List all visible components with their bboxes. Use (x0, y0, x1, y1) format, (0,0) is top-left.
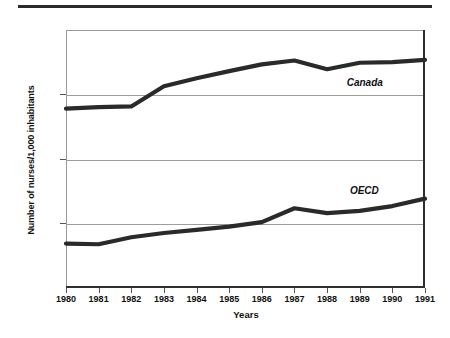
x-tick-mark (229, 288, 230, 293)
y-tick-mark (60, 223, 66, 224)
y-tick-mark (60, 94, 66, 95)
x-tick-mark (360, 288, 361, 293)
x-tick-mark (392, 288, 393, 293)
plot-area (66, 30, 425, 288)
y-tick-mark (60, 159, 66, 160)
top-divider-rule (18, 5, 432, 8)
series-label-canada: Canada (347, 77, 383, 88)
x-tick-mark (327, 288, 328, 293)
x-tick-mark (99, 288, 100, 293)
x-tick-mark (197, 288, 198, 293)
x-tick-mark (131, 288, 132, 293)
y-axis-title: Number of nurses/1,000 inhabitants (26, 45, 36, 275)
x-axis-title: Years (66, 309, 426, 320)
plot-right-border (423, 30, 425, 288)
x-tick-label: 1991 (405, 294, 445, 304)
x-tick-mark (294, 288, 295, 293)
plot-bottom-axis (66, 286, 425, 288)
x-tick-mark (425, 288, 426, 293)
series-label-oecd: OECD (350, 185, 379, 196)
gridline (67, 95, 424, 96)
gridline (67, 224, 424, 225)
gridline (67, 160, 424, 161)
x-tick-mark (164, 288, 165, 293)
x-tick-mark (66, 288, 67, 293)
chart-figure: Number of nurses/1,000 inhabitants 46810… (0, 0, 450, 338)
x-tick-mark (262, 288, 263, 293)
